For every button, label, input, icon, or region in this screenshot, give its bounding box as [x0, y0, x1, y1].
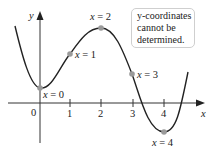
point-label-x2: x = 2 — [89, 11, 111, 22]
annotation-line-3: determined. — [137, 34, 194, 46]
point-label-x1: x = 1 — [74, 49, 96, 60]
point-label-x0: x = 0 — [42, 89, 64, 100]
point-label-x4: x = 4 — [151, 137, 174, 148]
tick-label-3: 3 — [130, 108, 135, 119]
point-x4 — [161, 129, 167, 135]
tick-label-1: 1 — [67, 108, 72, 119]
annotation-line-2: cannot be — [137, 22, 194, 34]
y-axis — [37, 11, 44, 143]
y-axis-arrow-icon — [37, 11, 44, 20]
x-axis-label: x — [200, 108, 206, 119]
tick-label-4: 4 — [161, 108, 167, 119]
y-axis-label: y — [28, 10, 34, 21]
point-x1 — [67, 51, 73, 57]
point-label-x3: x = 3 — [136, 69, 158, 80]
origin-label: 0 — [31, 107, 36, 118]
point-x3 — [129, 71, 135, 77]
annotation-line-1: y-coordinates — [137, 10, 194, 22]
point-x0 — [37, 85, 43, 91]
point-x2 — [98, 25, 104, 31]
x-axis-arrow-icon — [196, 100, 205, 107]
x-axis — [8, 100, 205, 107]
annotation-box: y-coordinates cannot be determined. — [131, 8, 195, 48]
tick-label-2: 2 — [98, 108, 103, 119]
